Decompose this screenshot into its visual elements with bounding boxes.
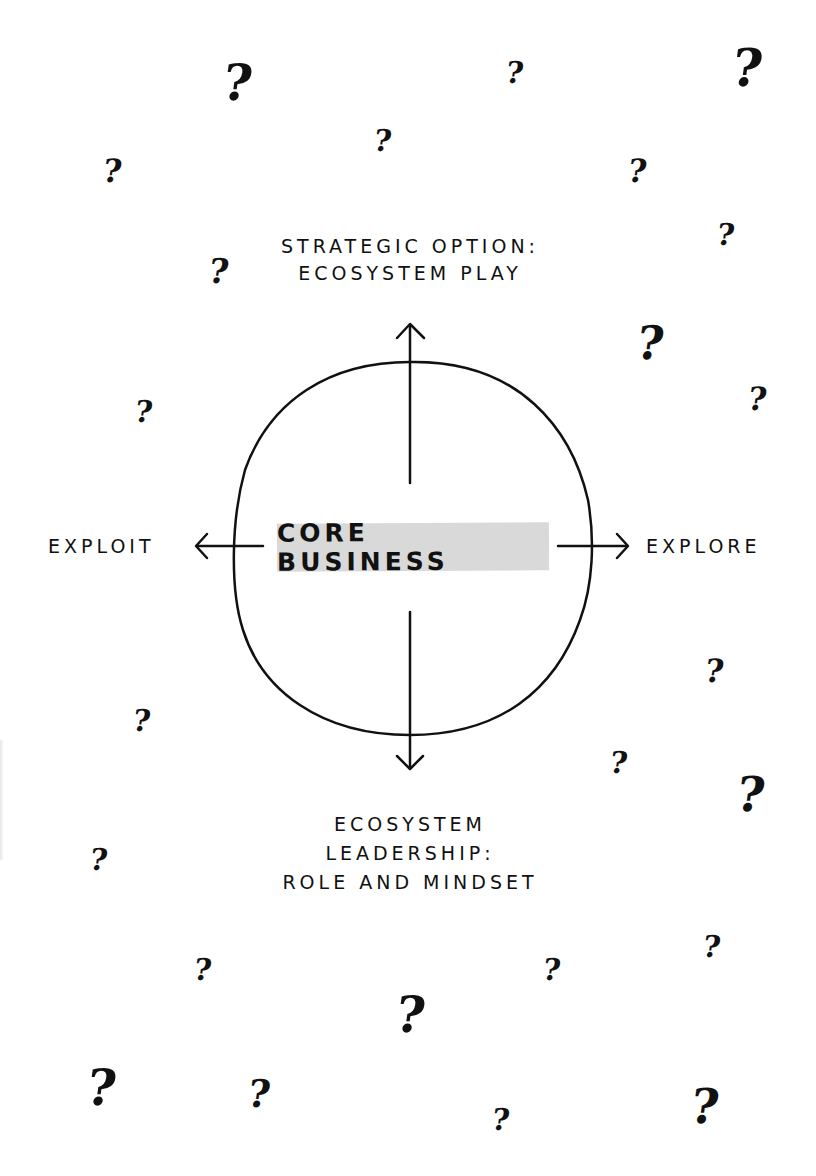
- top-label: STRATEGIC OPTION: ECOSYSTEM PLAY: [240, 233, 580, 287]
- bottom-label: ECOSYSTEM LEADERSHIP: ROLE AND MINDSET: [240, 810, 580, 897]
- top-label-line-2: ECOSYSTEM PLAY: [240, 260, 580, 287]
- bottom-label-line-2: LEADERSHIP:: [240, 839, 580, 868]
- bottom-label-line-3: ROLE AND MINDSET: [240, 868, 580, 897]
- bottom-label-line-1: ECOSYSTEM: [240, 810, 580, 839]
- core-business-label: CORE BUSINESS: [277, 522, 549, 571]
- explore-label: EXPLORE: [646, 533, 796, 560]
- exploit-label: EXPLOIT: [48, 533, 188, 560]
- top-label-line-1: STRATEGIC OPTION:: [240, 233, 580, 260]
